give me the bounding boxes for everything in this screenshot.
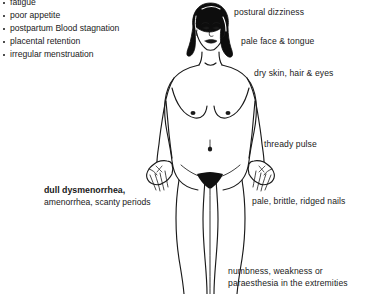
list-item: fatigue: [2, 0, 182, 9]
eye-left: [203, 27, 209, 29]
list-item: irregular menstruation: [2, 48, 182, 61]
symptom-list: fatigue poor appetite postpartum Blood s…: [2, 0, 182, 61]
nipple-left: [191, 111, 196, 115]
eye-right: [213, 27, 219, 29]
callout-dry-skin-hair-eyes: dry skin, hair & eyes: [254, 68, 333, 80]
callout-postural-dizziness: postural dizziness: [234, 7, 304, 19]
torso-right-outline: [222, 65, 256, 190]
neck-left-line: [199, 52, 202, 65]
callout-ridged-nails: pale, brittle, ridged nails: [252, 196, 345, 208]
navel: [208, 146, 212, 151]
breast-left-contour: [172, 88, 207, 118]
amenorrhea-label: amenorrhea, scanty periods: [44, 196, 151, 208]
dysmenorrhea-label: dull dysmenorrhea,: [44, 184, 151, 196]
callout-thready-pulse: thready pulse: [264, 139, 317, 151]
callout-numbness-line2: paraesthesia in the extremities: [228, 278, 348, 290]
list-item: poor appetite: [2, 9, 182, 22]
diagram-canvas: fatigue poor appetite postpartum Blood s…: [0, 0, 373, 294]
callout-numbness-line1: numbness, weakness or: [228, 266, 323, 278]
callout-pale-face-tongue: pale face & tongue: [241, 36, 314, 48]
menstrual-symptom-block: dull dysmenorrhea, amenorrhea, scanty pe…: [44, 184, 151, 208]
torso-left-outline: [165, 65, 199, 190]
nipple-right: [226, 111, 231, 115]
leg-right-inner: [214, 180, 218, 294]
clavicle-notch: [205, 63, 216, 65]
leg-left-outer: [176, 180, 184, 294]
hand-right: [248, 161, 274, 191]
leg-left-inner: [203, 180, 207, 294]
list-item: postpartum Blood stagnation: [2, 22, 182, 35]
neck-right-line: [219, 52, 222, 65]
pubic-hair: [197, 172, 223, 189]
list-item: placental retention: [2, 35, 182, 48]
breast-right-contour: [214, 88, 249, 118]
